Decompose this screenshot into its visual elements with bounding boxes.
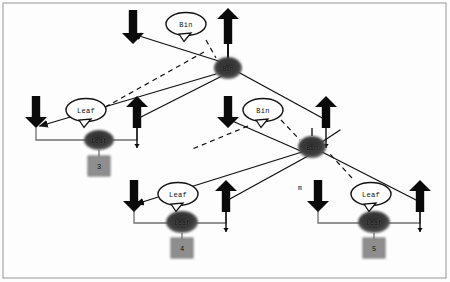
callout-leaf-mid-tail [171, 203, 183, 212]
callout-bin-top [166, 13, 206, 42]
tree-edge-root-down-left [40, 74, 216, 126]
arrow-down-leaf-mid [123, 180, 145, 212]
box-leaf-left-value: 3 [97, 163, 101, 171]
tree-edge-mid-left [230, 120, 303, 152]
diagram-vector-layer [0, 0, 450, 282]
tree-edge-root-left [133, 34, 228, 64]
callout-leaf-left-tail [79, 119, 91, 128]
callout-bin-mid-tail [256, 119, 268, 128]
node-leaf-mid-label: Leaf [174, 220, 190, 227]
node-bin-root-label: Bin [222, 66, 234, 73]
arrow-down-root-left [122, 10, 144, 44]
callout-leaf-right [351, 183, 391, 212]
dashed-root-to-node [206, 40, 216, 58]
node-bin-mid-label: Bin [306, 145, 318, 152]
box-leaf-right-value: 5 [372, 245, 376, 253]
dashed-mid-to-left [190, 126, 248, 150]
callout-leaf-mid [158, 183, 198, 212]
callout-leaf-right-tail [364, 203, 376, 212]
box-leaf-mid-value: 4 [180, 245, 184, 253]
callout-leaf-left [66, 99, 106, 128]
arrow-up-leaf-right [409, 180, 431, 232]
node-leaf-left-label: Leaf [91, 138, 107, 145]
tree-edge-mid-up-right [322, 130, 340, 142]
tree-diagram-canvas: 345BinLeafBinLeafLeafBinLeafBinLeafLeafm [0, 0, 450, 282]
callout-bin-mid [243, 99, 283, 128]
arrow-up-leaf-mid [215, 180, 237, 232]
node-leaf-right-label: Leaf [366, 220, 382, 227]
dashed-mid-to-node [281, 120, 300, 140]
arrow-down-leaf-left [25, 96, 47, 128]
dashed-root-to-left [100, 52, 204, 110]
arrow-down-leaf-right [307, 180, 329, 212]
callout-bin-top-tail [179, 33, 191, 42]
edge-label-m: m [298, 185, 302, 192]
